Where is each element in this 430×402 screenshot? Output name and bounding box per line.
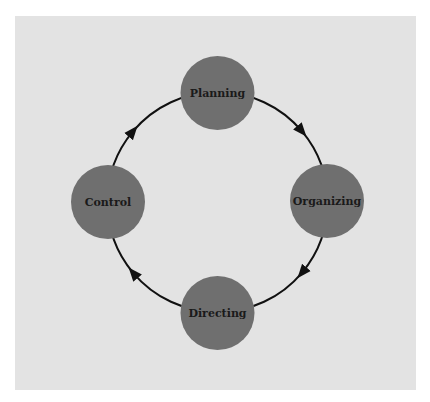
node-planning-label: Planning [190,87,246,100]
node-control-label: Control [85,196,131,209]
management-cycle-diagram: Planning Organizing Directing Control [0,0,430,402]
node-directing: Directing [181,276,255,350]
node-organizing: Organizing [290,164,364,238]
node-planning: Planning [181,56,255,130]
node-organizing-label: Organizing [293,195,362,208]
node-control: Control [71,165,145,239]
node-directing-label: Directing [188,307,246,320]
